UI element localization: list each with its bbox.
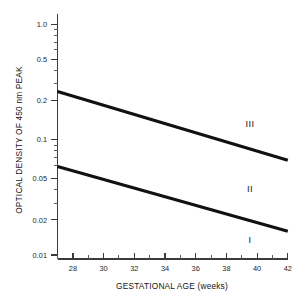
y-axis-major-ticks [51, 24, 58, 255]
x-tick-label: 32 [130, 264, 138, 273]
x-tick-label: 36 [192, 264, 200, 273]
y-axis-title: OPTICAL DENSITY OF 450 nm PEAK [14, 66, 24, 214]
y-tick-label: 0.1 [37, 135, 47, 144]
y-tick-label: 0.01 [33, 251, 47, 260]
zone-boundary-lines [58, 92, 288, 232]
zone-label-i: I [248, 234, 251, 245]
y-tick-label: 0.5 [37, 55, 47, 64]
liley-curve-chart: 1.0 0.5 0.2 0.1 0.05 0.02 0.01 28 30 32 … [0, 0, 300, 303]
chart-canvas: 1.0 0.5 0.2 0.1 0.05 0.02 0.01 28 30 32 … [0, 0, 300, 303]
x-axis-tick-labels: 28 30 32 34 36 38 40 42 [69, 264, 292, 273]
y-tick-label: 1.0 [37, 20, 47, 29]
x-tick-label: 34 [161, 264, 169, 273]
lower-zone-boundary-line [58, 167, 288, 232]
x-tick-label: 28 [69, 264, 77, 273]
x-axis-title: GESTATIONAL AGE (weeks) [116, 281, 228, 291]
x-axis-ticks [58, 253, 288, 260]
zone-label-iii: III [245, 118, 254, 129]
x-tick-label: 38 [222, 264, 230, 273]
y-tick-label: 0.2 [37, 96, 47, 105]
zone-annotations: III II I [245, 118, 254, 245]
x-tick-label: 40 [253, 264, 261, 273]
y-axis-tick-labels: 1.0 0.5 0.2 0.1 0.05 0.02 0.01 [33, 20, 47, 260]
zone-label-ii: II [247, 183, 253, 194]
y-tick-label: 0.02 [33, 216, 47, 225]
x-tick-label: 30 [99, 264, 107, 273]
x-tick-label: 42 [284, 264, 292, 273]
y-tick-label: 0.05 [33, 174, 47, 183]
